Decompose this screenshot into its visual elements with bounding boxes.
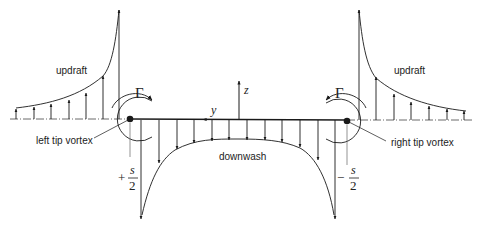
svg-text:2: 2 [129, 178, 136, 193]
y-axis-label: y [210, 103, 217, 117]
left-tip-vortex-label: left tip vortex [36, 135, 93, 146]
left-half-span-label: + s 2 [118, 163, 138, 193]
gamma-left: Γ [135, 85, 144, 101]
updraft-curve-right [359, 10, 466, 111]
vortex-diagram: z y Γ Γ updraft updraft downwash left ti… [0, 0, 482, 236]
updraft-label-left: updraft [56, 65, 87, 76]
right-half-span-label: − s 2 [337, 163, 359, 193]
downwash-label: downwash [219, 151, 266, 162]
gamma-right: Γ [335, 85, 344, 101]
z-axis-label: z [243, 83, 249, 97]
svg-text:+: + [118, 170, 125, 185]
svg-text:s: s [351, 163, 356, 177]
updraft-label-right: updraft [394, 65, 425, 76]
svg-text:s: s [130, 163, 135, 177]
svg-text:2: 2 [350, 178, 357, 193]
svg-text:−: − [337, 170, 344, 185]
right-tip-vortex-label: right tip vortex [391, 137, 454, 148]
updraft-curve-left [16, 10, 119, 108]
downwash-arrows [141, 120, 335, 219]
